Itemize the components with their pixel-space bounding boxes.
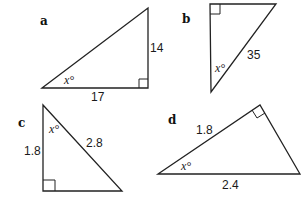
- triangle-b-side-hypotenuse: 35: [247, 48, 261, 62]
- triangle-c-side-hypotenuse: 2.8: [86, 136, 103, 150]
- right-angle-marker-icon: [210, 4, 220, 14]
- triangle-b: b 35 x°: [182, 4, 276, 92]
- triangle-d-angle-label: x°: [180, 159, 191, 173]
- triangle-d: d 1.8 2.4 x°: [158, 105, 300, 192]
- triangle-b-angle-label: x°: [214, 61, 225, 75]
- triangle-c-letter: c: [18, 116, 25, 130]
- triangle-d-letter: d: [168, 113, 177, 127]
- triangle-c-side-adjacent: 1.8: [24, 144, 41, 158]
- right-angle-marker-icon: [139, 79, 148, 88]
- triangle-a-letter: a: [40, 14, 48, 28]
- triangle-c-shape: [43, 105, 122, 191]
- triangle-b-shape: [210, 4, 276, 92]
- triangle-a: a 14 17 x°: [40, 8, 164, 104]
- triangle-d-shape: [158, 105, 300, 174]
- triangle-b-letter: b: [182, 12, 190, 26]
- triangle-c: c 1.8 2.8 x°: [18, 105, 122, 191]
- triangle-a-shape: [42, 8, 148, 88]
- triangle-a-side-adjacent: 17: [91, 90, 105, 104]
- triangle-a-angle-label: x°: [63, 73, 74, 87]
- right-angle-marker-icon: [43, 180, 55, 191]
- triangle-d-side-hypotenuse: 2.4: [222, 178, 239, 192]
- triangle-a-side-opposite: 14: [150, 41, 164, 55]
- triangle-d-side-adjacent: 1.8: [196, 123, 213, 137]
- triangle-c-angle-label: x°: [48, 122, 59, 136]
- triangles-diagram: a 14 17 x° b 35 x° c 1.8 2.8 x° d 1.8 2.…: [0, 0, 306, 197]
